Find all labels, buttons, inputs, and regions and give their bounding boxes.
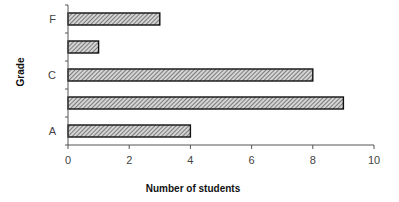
x-tick-label: 10: [368, 154, 380, 166]
x-axis-title: Number of students: [146, 183, 241, 194]
bar-d: [68, 41, 99, 53]
y-tick-label: A: [49, 125, 57, 137]
x-tick-label: 6: [249, 154, 255, 166]
x-tick-label: 4: [187, 154, 193, 166]
bars-group: [68, 13, 343, 137]
labels-group: ACF0246810: [48, 13, 380, 166]
bar-chart: ACF0246810 Grade Number of students: [0, 0, 399, 202]
y-tick-label: F: [49, 13, 56, 25]
y-axis-title: Grade: [15, 57, 26, 86]
bar-b: [68, 97, 343, 109]
x-tick-label: 0: [65, 154, 71, 166]
bar-f: [68, 13, 160, 25]
y-tick-label: C: [48, 69, 56, 81]
x-tick-label: 8: [310, 154, 316, 166]
bar-c: [68, 69, 313, 81]
bar-a: [68, 125, 190, 137]
x-tick-label: 2: [126, 154, 132, 166]
